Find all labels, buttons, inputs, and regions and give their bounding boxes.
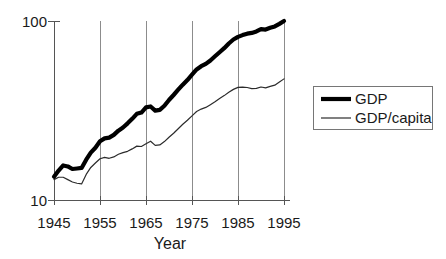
legend-label-gdp-per-capita: GDP/capita — [355, 109, 432, 126]
x-tick-label-1985: 1985 — [221, 214, 254, 231]
x-axis-title: Year — [154, 235, 187, 252]
gdp-line-chart: 100 10 1945 1955 1965 1975 1985 1995 Yea… — [0, 0, 446, 259]
chart-legend: GDP GDP/capita — [314, 87, 433, 130]
legend-label-gdp: GDP — [355, 90, 388, 107]
x-tick-label-1965: 1965 — [129, 214, 162, 231]
y-tick-label-100: 100 — [22, 13, 47, 30]
x-tick-label-1955: 1955 — [83, 214, 116, 231]
y-tick-label-10: 10 — [30, 192, 47, 209]
x-tick-label-1975: 1975 — [175, 214, 208, 231]
chart-screenshot: 100 10 1945 1955 1965 1975 1985 1995 Yea… — [0, 0, 446, 259]
x-tick-label-1945: 1945 — [37, 214, 70, 231]
plot-area-background — [54, 21, 284, 200]
x-tick-label-1995: 1995 — [267, 214, 300, 231]
